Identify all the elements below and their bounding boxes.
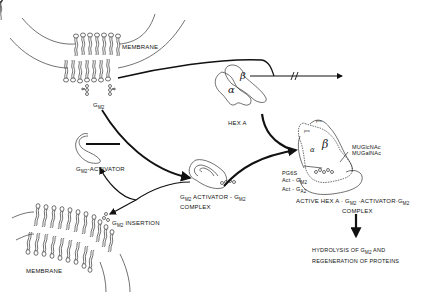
insertion-sub: M2 [117,223,124,228]
result-line1: HYDROLYSIS OF GM2 AND [312,246,399,257]
complex-shape [189,160,235,189]
active-beta: β [322,138,328,151]
top-membrane [10,14,185,68]
active-alpha: α [310,146,315,154]
pro-label-1: pro [304,128,310,133]
complex-line2: COMPLEX [180,204,211,211]
pathway-arrows [86,60,356,236]
result-label: HYDROLYSIS OF GM2 AND REGENERATION OF PR… [312,246,399,266]
complex-sub2: M2 [239,197,246,202]
inhibitor-act-ga2: Act - GA2 [282,186,307,195]
complex-sub: M2 [185,197,192,202]
gm2-sub: M2 [98,105,105,110]
gm2-label: GM2 [93,102,105,111]
substrate-2: MUGalNAc [352,150,381,156]
hexa-label: HEX A [228,120,247,127]
activator-sub: M2 [81,169,88,174]
insertion-rest: INSERTION [124,220,160,226]
membrane-bottom-label: MEMBRANE [26,268,62,275]
result-line2: REGENERATION OF PROTEINS [312,257,399,266]
membrane-top-label: MEMBRANE [122,44,158,51]
complex-mid: ACTIVATOR - G [192,194,239,200]
inhibitors-label: PG6S Act - GM2 Act - GA2 [282,170,307,195]
hexa-beta: β [240,70,246,81]
inhibitor-act-gm2: Act - GM2 [282,177,307,186]
substrates-label: MUGlcNAcMUGalNAc [352,144,381,156]
active-complex-line2: COMPLEX [342,208,373,215]
top-lipid-bilayer [0,0,121,96]
complex-label: GM2 ACTIVATOR - GM2 [180,194,246,203]
insertion-label: GM2 INSERTION [112,220,160,229]
activator-label: GM2-ACTIVATOR [76,166,125,175]
activator-shape [76,133,101,163]
pro-label-2: pro [316,118,322,123]
activator-rest: -ACTIVATOR [88,166,125,172]
active-complex-label: ACTIVE HEX A · GM2 ·ACTIVATOR·GM2 [296,198,409,207]
hexa-alpha: α [228,84,235,95]
